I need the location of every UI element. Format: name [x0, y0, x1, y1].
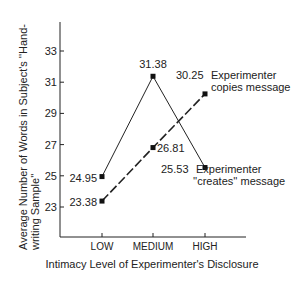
- y-tick-label: 27: [45, 139, 57, 151]
- y-tick-label: 23: [45, 201, 57, 213]
- series-label: copies message: [211, 81, 291, 93]
- series-label: ''creates'' message: [193, 175, 285, 187]
- value-label: 24.95: [69, 172, 97, 184]
- y-tick-label: 31: [45, 76, 57, 88]
- value-label: 31.38: [139, 58, 167, 70]
- line-chart: 232527293133 LOWMEDIUMHIGH 24.9531.3825.…: [0, 0, 305, 281]
- y-ticks: 232527293133: [45, 45, 64, 213]
- data-point-marker: [151, 145, 156, 150]
- data-point-marker: [100, 174, 105, 179]
- value-labels: 24.9531.3825.53Experimenter''creates'' m…: [69, 58, 290, 208]
- x-axis-label: Intimacy Level of Experimenter's Disclos…: [45, 258, 258, 270]
- value-label: 30.25: [176, 69, 204, 81]
- value-label: 23.38: [69, 196, 97, 208]
- y-axis-label-line2: writing Sample'': [29, 174, 41, 251]
- series-label: Experimenter: [211, 69, 277, 81]
- x-ticks: LOWMEDIUMHIGH: [91, 233, 218, 252]
- series-line: [102, 76, 205, 176]
- data-point-marker: [100, 199, 105, 204]
- value-label: 25.53: [161, 163, 189, 175]
- x-tick-label: LOW: [91, 241, 114, 252]
- y-tick-label: 29: [45, 107, 57, 119]
- series-group: [100, 74, 208, 204]
- x-tick-label: HIGH: [193, 241, 218, 252]
- y-tick-label: 25: [45, 170, 57, 182]
- y-tick-label: 33: [45, 45, 57, 57]
- x-tick-label: MEDIUM: [133, 241, 174, 252]
- series-label: Experimenter: [196, 163, 262, 175]
- data-point-marker: [203, 91, 208, 96]
- y-axis-label-line1: Average Number of Words in Subject's ''H…: [17, 24, 29, 250]
- data-point-marker: [151, 74, 156, 79]
- value-label: 26.81: [157, 142, 185, 154]
